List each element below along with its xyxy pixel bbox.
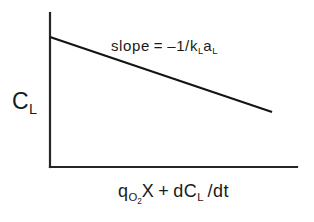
slope-equals-sign: =: [154, 37, 163, 54]
x-axis-label-biomass-x: X: [142, 181, 155, 201]
x-axis-label-o: O: [128, 191, 137, 203]
x-axis-label-plus-sign: +: [158, 181, 169, 201]
slope-annotation: slope=–1/kLaL: [111, 38, 217, 53]
x-axis-label-over-dt: /dt: [208, 181, 230, 201]
slope-minus-one-over: –1/: [167, 37, 190, 54]
slope-kla-a: a: [203, 37, 212, 54]
x-axis-label-c: C: [184, 181, 198, 201]
slope-word: slope: [111, 37, 150, 54]
y-axis-label-symbol: C: [12, 88, 29, 114]
y-axis-label: CL: [12, 90, 37, 113]
x-axis-label-c-subscript: L: [197, 191, 203, 203]
slope-kla-a-subscript: L: [212, 45, 217, 56]
x-axis-label-d: d: [173, 181, 184, 201]
x-axis-label-q: q: [118, 181, 129, 201]
gassing-out-plot-figure: CL slope=–1/kLaL qO2X+dCL/dt: [0, 0, 314, 222]
slope-kla-k: k: [190, 37, 198, 54]
y-axis-label-subscript: L: [29, 101, 37, 117]
x-axis-label-q-subscript-o: O2: [128, 191, 141, 203]
x-axis-label: qO2X+dCL/dt: [50, 182, 297, 202]
